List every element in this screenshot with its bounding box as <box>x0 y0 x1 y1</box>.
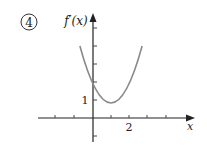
y-axis-arrow-icon <box>90 13 97 22</box>
problem-number-badge: 4 <box>21 14 37 30</box>
derivative-curve <box>80 46 142 103</box>
derivative-graph-figure: 4 2 x <box>0 0 207 154</box>
x-tick-label-2: 2 <box>126 121 133 134</box>
y-tick-label-1: 1 <box>82 94 89 107</box>
y-axis-label: f′(x) <box>63 14 88 28</box>
problem-number: 4 <box>25 16 33 30</box>
x-axis: 2 x <box>38 115 195 135</box>
y-axis: 1 f′(x) <box>63 13 97 142</box>
x-axis-label: x <box>187 120 194 133</box>
